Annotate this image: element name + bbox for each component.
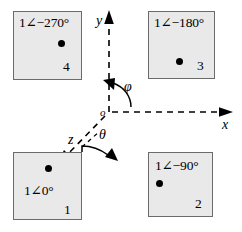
theta-angle-label: θ: [99, 127, 106, 143]
quadrant-number-3: 3: [197, 58, 204, 74]
y-axis-arrowhead: [104, 10, 114, 24]
phasor-label-3: 1∠−180°: [154, 14, 204, 31]
phasor-dot-4: [58, 40, 65, 47]
theta-arc: [82, 146, 108, 155]
theta-arc-arrowhead: [105, 148, 118, 161]
quadrant-number-4: 4: [63, 59, 70, 75]
phasor-label-2: 1∠−90°: [155, 157, 198, 174]
x-axis-label: x: [222, 117, 228, 133]
z-axis-label: z: [68, 132, 73, 148]
quadrant-number-1: 1: [64, 202, 71, 218]
quadrant-number-2: 2: [195, 196, 202, 212]
phasor-dot-2: [156, 180, 163, 187]
y-axis-label: y: [96, 13, 102, 29]
origin-label: o: [100, 106, 106, 118]
phasor-dot-3: [176, 58, 183, 65]
phasor-quadrant-diagram: 1∠−270° 4 1∠−180° 3 1∠0° 1 1∠−90° 2 y x …: [0, 0, 242, 232]
phasor-label-1: 1∠0°: [24, 182, 53, 199]
x-axis-arrowhead: [219, 107, 233, 117]
theta-guide-line: [82, 131, 100, 147]
phasor-dot-1: [45, 165, 52, 172]
phi-angle-label: φ: [124, 79, 132, 95]
phasor-label-4: 1∠−270°: [19, 14, 69, 31]
